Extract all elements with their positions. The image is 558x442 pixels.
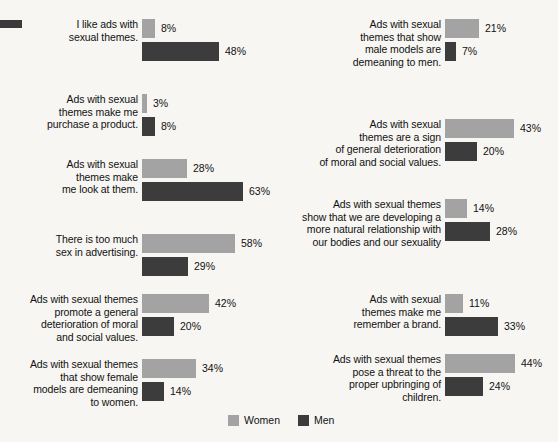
chart-legend: WomenMen [228, 415, 334, 426]
bar-group-bars: 43%20% [445, 118, 541, 161]
bar-group-bars: 42%20% [142, 293, 236, 336]
bar-row-men: 28% [445, 222, 517, 241]
bar-row-women: 28% [142, 159, 270, 178]
legend-item-men: Men [298, 415, 334, 426]
bar-row-women: 43% [445, 119, 541, 138]
bar-value-women: 8% [155, 19, 176, 38]
legend-label: Women [244, 415, 280, 426]
bar-value-men: 14% [164, 382, 191, 401]
bar-row-men: 7% [445, 42, 506, 61]
bar-value-men: 48% [219, 42, 246, 61]
bar-group-label: Ads with sexual themes pose a threat to … [291, 353, 445, 403]
bar-men [445, 222, 490, 241]
bar-row-women: 3% [142, 94, 176, 113]
bar-value-men: 29% [188, 257, 215, 276]
bar-group-label: Ads with sexual themes that show female … [6, 358, 142, 408]
bar-group-label: Ads with sexual themes show that we are … [291, 198, 445, 248]
bar-group-label: Ads with sexual themes make me purchase … [6, 93, 142, 131]
bar-men [445, 42, 456, 61]
bar-women [142, 359, 196, 378]
bar-value-women: 3% [147, 94, 168, 113]
bar-value-men: 33% [498, 317, 525, 336]
bar-women [142, 234, 235, 253]
bar-row-women: 21% [445, 19, 506, 38]
bar-value-women: 34% [196, 359, 223, 378]
bar-women [445, 199, 467, 218]
bar-women [445, 19, 479, 38]
bar-men [445, 317, 498, 336]
bar-group: There is too much sex in advertising.58%… [6, 233, 262, 276]
bar-row-men: 20% [445, 142, 541, 161]
bar-group-bars: 3%8% [142, 93, 176, 136]
bar-men [142, 117, 155, 136]
bar-women [445, 354, 515, 373]
bar-group: Ads with sexual themes make me look at t… [6, 158, 270, 201]
bar-group-label: Ads with sexual themes make me look at t… [6, 158, 142, 196]
bar-row-men: 20% [142, 317, 236, 336]
bar-group: I like ads with sexual themes.8%48% [6, 18, 246, 61]
bar-group-label: Ads with sexual themes promote a general… [6, 293, 142, 343]
bar-value-women: 14% [467, 199, 494, 218]
bar-women [445, 294, 463, 313]
bar-group-bars: 58%29% [142, 233, 262, 276]
bar-men [445, 377, 483, 396]
bar-row-men: 33% [445, 317, 525, 336]
chart-column-right: Ads with sexual themes that show male mo… [279, 0, 558, 442]
bar-value-women: 28% [187, 159, 214, 178]
bar-row-women: 42% [142, 294, 236, 313]
bar-row-men: 29% [142, 257, 262, 276]
bar-value-women: 44% [515, 354, 542, 373]
bar-group-bars: 11%33% [445, 293, 525, 336]
chart-column-left: I like ads with sexual themes.8%48%Ads w… [0, 0, 279, 442]
bar-value-men: 20% [477, 142, 504, 161]
bar-group: Ads with sexual themes make me remember … [291, 293, 525, 336]
bar-group-label: Ads with sexual themes are a sign of gen… [291, 118, 445, 168]
bar-women [142, 294, 209, 313]
bar-row-women: 34% [142, 359, 223, 378]
bar-group: Ads with sexual themes make me purchase … [6, 93, 176, 136]
bar-group: Ads with sexual themes that show male mo… [291, 18, 506, 68]
bar-group-bars: 14%28% [445, 198, 517, 241]
bar-women [142, 159, 187, 178]
bar-value-women: 11% [463, 294, 489, 313]
bar-row-women: 58% [142, 234, 262, 253]
bar-group-label: Ads with sexual themes make me remember … [291, 293, 445, 331]
bar-value-men: 8% [155, 117, 176, 136]
bar-group-label: Ads with sexual themes that show male mo… [291, 18, 445, 68]
bar-row-women: 8% [142, 19, 246, 38]
bar-group-label: I like ads with sexual themes. [6, 18, 142, 43]
bar-value-women: 21% [479, 19, 506, 38]
bar-row-men: 48% [142, 42, 246, 61]
bar-men [142, 42, 219, 61]
bar-group: Ads with sexual themes show that we are … [291, 198, 517, 248]
bar-men [445, 142, 477, 161]
bar-group: Ads with sexual themes are a sign of gen… [291, 118, 541, 168]
legend-swatch-icon [298, 415, 309, 426]
legend-label: Men [314, 415, 334, 426]
bar-women [142, 19, 155, 38]
legend-swatch-icon [228, 415, 239, 426]
bar-value-men: 24% [483, 377, 510, 396]
bar-row-men: 63% [142, 182, 270, 201]
bar-group-bars: 34%14% [142, 358, 223, 401]
bar-value-men: 28% [490, 222, 517, 241]
bar-men [142, 317, 174, 336]
bar-value-women: 43% [514, 119, 541, 138]
bar-row-men: 8% [142, 117, 176, 136]
bar-group: Ads with sexual themes promote a general… [6, 293, 236, 343]
bar-group-bars: 44%24% [445, 353, 542, 396]
legend-item-women: Women [228, 415, 280, 426]
bar-group-bars: 8%48% [142, 18, 246, 61]
bar-men [142, 182, 243, 201]
bar-group: Ads with sexual themes that show female … [6, 358, 223, 408]
survey-bar-chart: I like ads with sexual themes.8%48%Ads w… [0, 0, 558, 442]
bar-value-men: 7% [456, 42, 477, 61]
bar-value-women: 58% [235, 234, 262, 253]
bar-value-women: 42% [209, 294, 236, 313]
bar-group-label: There is too much sex in advertising. [6, 233, 142, 258]
bar-men [142, 382, 164, 401]
bar-row-women: 14% [445, 199, 517, 218]
bar-row-men: 24% [445, 377, 542, 396]
bar-value-men: 63% [243, 182, 270, 201]
bar-men [142, 257, 188, 276]
